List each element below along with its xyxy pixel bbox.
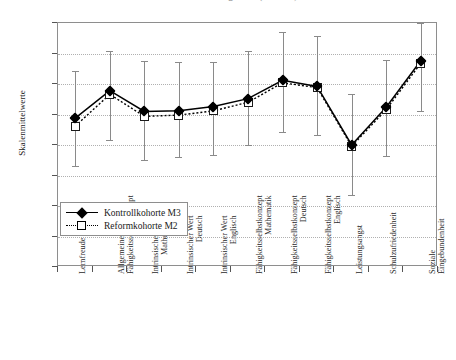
open-square-icon <box>65 219 99 232</box>
y-axis-label: Skalenmittelwerte <box>17 48 27 198</box>
legend-item-kontrollkohorte[interactable]: Kontrollkohorte M3 <box>65 206 181 219</box>
chart-title: Pemrnalsuhen dargestellt (N = 452) <box>0 0 456 1</box>
chart-figure: Pemrnalsuhen dargestellt (N = 452) Skale… <box>0 0 456 360</box>
legend-label: Kontrollkohorte M3 <box>99 208 181 218</box>
legend-label: Reformkohorte M2 <box>99 221 178 231</box>
filled-diamond-icon <box>65 206 99 219</box>
legend-item-reformkohorte[interactable]: Reformkohorte M2 <box>65 219 181 232</box>
chart-legend: Kontrollkohorte M3 Reformkohorte M2 <box>60 202 188 236</box>
